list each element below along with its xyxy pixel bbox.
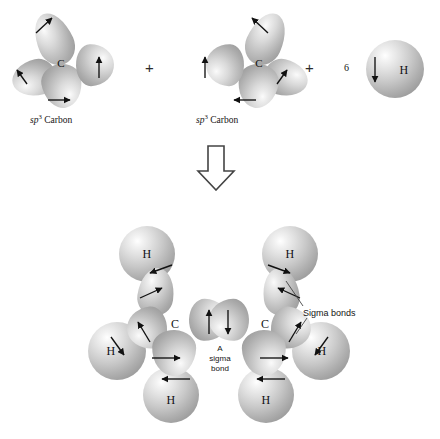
- figure-canvas: C sp3 Carbon + C sp3 Carbon + 6 H: [0, 0, 440, 439]
- hydrogen-label-far-left: H: [104, 345, 118, 357]
- hydrogen-label-top-right: H: [283, 248, 297, 260]
- carbon-right-label: C: [258, 318, 272, 330]
- a-sigma-bond-callout: A sigma bond: [193, 344, 247, 374]
- sigma-lobe-right-down: [241, 329, 287, 377]
- sigma-bonds-callout: Sigma bonds: [303, 308, 356, 318]
- hydrogen-label-bottom-left: H: [164, 394, 178, 406]
- hydrogen-label-bottom-right: H: [259, 394, 273, 406]
- carbon-left-label: C: [168, 318, 182, 330]
- hydrogen-label-far-right: H: [315, 345, 329, 357]
- ethane-molecule: C C H H H H H H A sigma bond Sigma bonds: [0, 0, 440, 439]
- hydrogen-label-top-left: H: [140, 248, 154, 260]
